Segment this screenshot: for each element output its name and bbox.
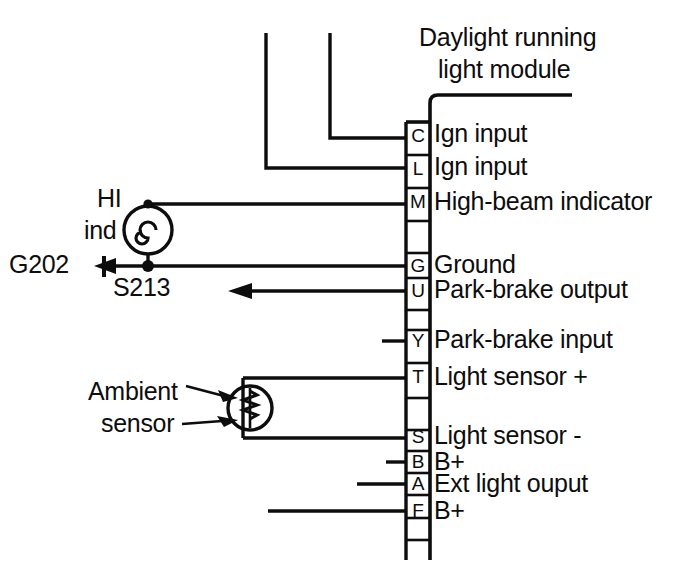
pin-letter-b: B: [407, 452, 429, 471]
wire-pin-c: [330, 33, 406, 138]
hi-ind-lamp-filament: [136, 222, 156, 244]
pin-desc-t: Light sensor +: [434, 364, 588, 389]
pin-letter-g: G: [407, 256, 429, 275]
ambient-sensor-label-line1: Ambient: [88, 379, 178, 404]
pin-desc-s: Light sensor -: [434, 423, 581, 448]
pin-desc-l: Ign input: [434, 154, 527, 179]
pin-letter-y: Y: [407, 331, 429, 350]
pin-letter-l: L: [407, 159, 429, 178]
junction-dot-hi-ind-top: [143, 199, 152, 208]
pin-letter-m: M: [407, 192, 429, 211]
hi-ind-label-line2: ind: [84, 218, 116, 243]
wiring-diagram: Daylight running light module C L M G U …: [0, 0, 696, 585]
hi-ind-lamp-circle: [124, 206, 172, 254]
pin-desc-a: Ext light ouput: [434, 471, 588, 496]
splice-dot-s213: [142, 260, 154, 272]
pin-desc-y: Park-brake input: [434, 327, 613, 352]
leader-ambient-sensor-lower: [182, 421, 222, 424]
module-title-line2: light module: [438, 57, 570, 82]
pin-desc-u: Park-brake output: [434, 277, 628, 302]
splice-node-label-s213: S213: [113, 275, 170, 300]
module-title-line1: Daylight running: [419, 25, 596, 50]
arrowhead-park-brake-output: [228, 283, 252, 299]
pin-desc-m: High-beam indicator: [434, 189, 652, 214]
ambient-sensor-label-line2: sensor: [101, 411, 174, 436]
pin-letter-f: F: [407, 501, 429, 520]
pin-desc-g: Ground: [434, 252, 516, 277]
wire-pin-l: [266, 33, 406, 168]
ground-node-label-g202: G202: [9, 252, 69, 277]
pin-letter-s: S: [407, 427, 429, 446]
hi-ind-label-line1: HI: [97, 186, 121, 211]
pin-letter-c: C: [407, 126, 429, 145]
pin-letter-t: T: [407, 367, 429, 386]
pin-letter-u: U: [407, 281, 429, 300]
pin-letter-a: A: [407, 474, 429, 493]
pin-desc-f: B+: [434, 498, 465, 523]
leader-ambient-sensor-upper: [186, 386, 224, 396]
pin-desc-c: Ign input: [434, 121, 527, 146]
